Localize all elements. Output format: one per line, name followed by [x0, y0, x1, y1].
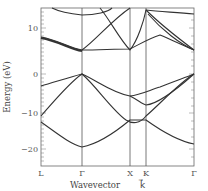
xtick-gamma-end: Γ	[191, 169, 197, 178]
xtick-X: X	[127, 169, 133, 178]
band-structure-chart: 10 0 −10 −20 L Γ X K Γ Wavevector k⃗ Ene…	[0, 0, 208, 191]
symmetry-lines	[82, 8, 146, 166]
band-2	[41, 74, 194, 123]
ytick-minus20: −20	[21, 145, 38, 154]
xtick-gamma: Γ	[79, 169, 85, 178]
bands	[41, 8, 194, 147]
xtick-K: K	[143, 169, 150, 178]
ytick-minus10: −10	[21, 109, 38, 118]
y-axis-title: Energy (eV)	[2, 61, 12, 113]
x-vector-symbol: k⃗	[138, 179, 146, 190]
ytick-10: 10	[28, 24, 38, 33]
band-1	[41, 120, 194, 147]
band-8	[146, 10, 194, 50]
band-5-degenerate	[41, 38, 82, 51]
ytick-0: 0	[33, 70, 38, 79]
xtick-L: L	[38, 169, 44, 178]
x-axis-title: Wavevector	[70, 180, 121, 190]
band-4	[130, 74, 194, 105]
band-5	[41, 35, 194, 50]
